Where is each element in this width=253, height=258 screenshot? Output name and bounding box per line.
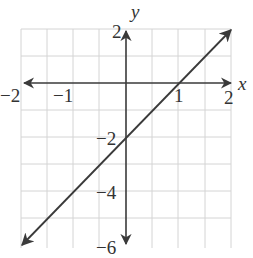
y-tick-neg6: −6 (96, 238, 116, 257)
x-tick-neg2: −2 (0, 86, 20, 105)
x-axis-label: x (238, 74, 246, 93)
y-tick-neg2: −2 (96, 129, 116, 148)
x-tick-2: 2 (224, 88, 234, 107)
y-tick-2: 2 (112, 22, 122, 41)
x-tick-1: 1 (174, 86, 184, 105)
y-tick-neg4: −4 (96, 183, 116, 202)
y-axis-label: y (131, 2, 139, 21)
x-tick-neg1: −1 (53, 86, 73, 105)
